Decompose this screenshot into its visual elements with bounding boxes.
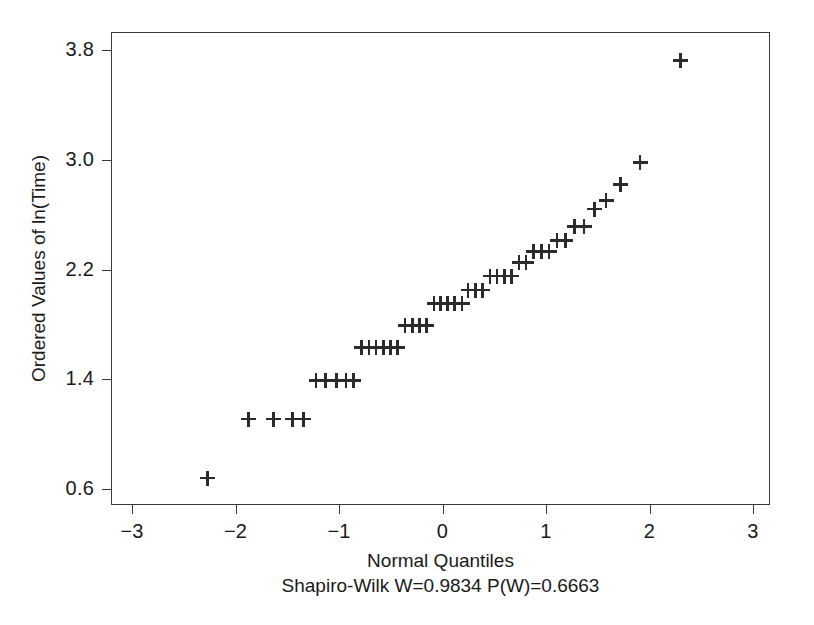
x-axis-tick-mark: [546, 505, 547, 514]
shapiro-wilk-statistic: Shapiro-Wilk W=0.9834 P(W)=0.6663: [111, 574, 770, 598]
x-axis-tick-label: 0: [413, 521, 473, 541]
y-axis-title: Ordered Values of ln(Time): [26, 32, 52, 505]
y-axis-tick-mark: [102, 379, 111, 380]
x-axis-tick-label: −3: [102, 521, 162, 541]
x-axis-tick-label: −2: [206, 521, 266, 541]
x-axis-tick-mark: [132, 505, 133, 514]
x-axis-title: Normal Quantiles: [111, 549, 770, 573]
y-axis-tick-mark: [102, 160, 111, 161]
x-axis-tick-mark: [443, 505, 444, 514]
y-axis-tick-mark: [102, 270, 111, 271]
x-axis-tick-mark: [650, 505, 651, 514]
y-axis-tick-mark: [102, 489, 111, 490]
x-axis-tick-label: −1: [309, 521, 369, 541]
y-axis-tick-mark: [102, 50, 111, 51]
x-axis-tick-label: 3: [723, 521, 783, 541]
plot-frame: [111, 32, 770, 505]
x-axis-tick-label: 1: [516, 521, 576, 541]
qq-plot-figure: 0.61.42.23.03.8−3−2−10123 Ordered Values…: [0, 0, 814, 625]
x-axis-tick-label: 2: [620, 521, 680, 541]
x-axis-tick-mark: [753, 505, 754, 514]
x-axis-tick-mark: [339, 505, 340, 514]
x-axis-tick-mark: [236, 505, 237, 514]
